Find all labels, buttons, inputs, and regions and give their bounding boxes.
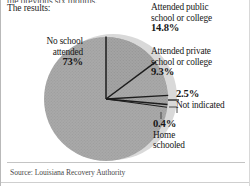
slice-value: 2.5%	[176, 89, 199, 100]
pie-chart-figure: the previous six months. The results:	[0, 0, 250, 186]
slice-value: 0.4%	[153, 119, 243, 130]
slice-value: 9.3%	[151, 67, 249, 78]
slice-label-no-school-attended: No school attended 73%	[15, 36, 83, 68]
slice-value: 73%	[15, 57, 83, 68]
slice-label-home-schooled: 0.4% Home schooled	[153, 119, 243, 151]
slice-label-line2: schooled	[153, 140, 243, 151]
slice-label-line1: Attended private	[151, 46, 249, 57]
slice-label-attended-public-school: Attended public school or college 14.8%	[151, 2, 249, 34]
slice-value: 14.8%	[151, 23, 249, 34]
slice-label-line1: Not indicated	[176, 100, 250, 111]
slice-label-attended-private-school: Attended private school or college 9.3%	[151, 46, 249, 78]
slice-label-line1: Home	[153, 130, 243, 141]
slice-label-not-indicated: 2.5% Not indicated	[176, 89, 250, 110]
source-attribution: Source: Louisiana Recovery Authority	[10, 168, 125, 177]
slice-label-line1: No school	[15, 36, 83, 47]
slice-label-line1: Attended public	[151, 2, 249, 13]
source-divider	[7, 162, 245, 163]
bottom-divider	[1, 182, 250, 183]
